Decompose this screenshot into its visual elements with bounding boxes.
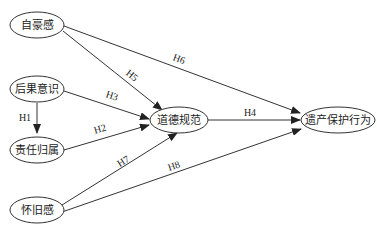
edge-h8: H8 xyxy=(62,129,301,212)
svg-text:自豪感: 自豪感 xyxy=(21,18,54,32)
node-daode: 道德规范 xyxy=(150,107,208,133)
svg-text:道德规范: 道德规范 xyxy=(157,113,201,127)
path-diagram: H1 H2 H3 H4 H5 H6 H7 H8 自豪感 后果意识 责任归属 xyxy=(0,0,377,229)
svg-text:H8: H8 xyxy=(166,158,181,172)
svg-text:H6: H6 xyxy=(172,51,187,66)
edge-h6: H6 xyxy=(64,26,300,113)
svg-text:遗产保护行为: 遗产保护行为 xyxy=(305,113,371,127)
svg-text:H2: H2 xyxy=(93,122,108,136)
svg-text:H1: H1 xyxy=(19,112,31,123)
svg-text:后果意识: 后果意识 xyxy=(15,82,59,96)
node-huaijiu: 怀旧感 xyxy=(10,197,64,223)
svg-text:H5: H5 xyxy=(124,67,140,83)
svg-text:H3: H3 xyxy=(105,89,120,103)
svg-text:怀旧感: 怀旧感 xyxy=(21,204,54,217)
svg-text:H4: H4 xyxy=(244,107,256,118)
node-zeren: 责任归属 xyxy=(10,137,64,163)
svg-text:H7: H7 xyxy=(115,153,131,169)
edge-h1: H1 xyxy=(19,103,37,133)
node-houguo: 后果意识 xyxy=(10,76,64,102)
node-zihao: 自豪感 xyxy=(10,12,64,38)
edge-h4: H4 xyxy=(208,107,300,120)
node-yichan: 遗产保护行为 xyxy=(301,107,375,133)
edge-h7: H7 xyxy=(62,133,177,205)
edge-h2: H2 xyxy=(64,122,149,150)
edge-h3: H3 xyxy=(64,89,149,119)
svg-text:责任归属: 责任归属 xyxy=(15,143,59,157)
